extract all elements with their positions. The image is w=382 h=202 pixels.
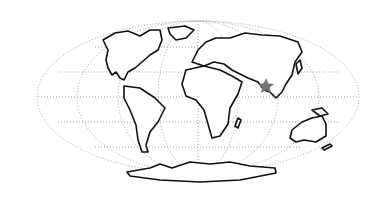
greenland	[168, 26, 194, 40]
north-america	[103, 30, 162, 80]
africa	[182, 66, 242, 138]
australia	[290, 116, 326, 142]
new-guinea	[312, 108, 328, 116]
new-zealand	[322, 144, 332, 150]
antarctica	[127, 162, 276, 182]
world-map	[0, 0, 382, 202]
continents	[103, 26, 332, 182]
madagascar	[235, 118, 241, 128]
south-america	[124, 86, 165, 152]
